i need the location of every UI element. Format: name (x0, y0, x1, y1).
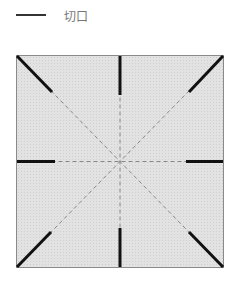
pinwheel-diagram (0, 0, 232, 282)
